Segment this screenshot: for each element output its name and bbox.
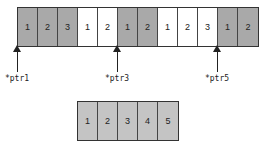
- top-cell: 2: [38, 8, 58, 46]
- top-cell: 1: [78, 8, 98, 46]
- bottom-cell: 3: [118, 102, 138, 140]
- top-cell: 2: [138, 8, 158, 46]
- top-cell: 1: [18, 8, 38, 46]
- arrow-shaft: [17, 50, 18, 72]
- arrow-shaft: [117, 50, 118, 72]
- bottom-cell: 2: [98, 102, 118, 140]
- bottom-cell: 5: [158, 102, 178, 140]
- top-cell: 1: [218, 8, 238, 46]
- bottom-cell: 1: [78, 102, 98, 140]
- top-cell: 1: [118, 8, 138, 46]
- bottom-memory-strip: 1 2 3 4 5: [77, 101, 179, 141]
- top-memory-strip: 1 2 3 1 2 1 2 1 2 3 1 2: [17, 7, 259, 47]
- top-cell: 2: [98, 8, 118, 46]
- bottom-cell: 4: [138, 102, 158, 140]
- top-cell: 3: [58, 8, 78, 46]
- top-cell: 2: [178, 8, 198, 46]
- pointer-label: *ptr3: [97, 74, 137, 83]
- top-cell: 3: [198, 8, 218, 46]
- arrow-shaft: [217, 50, 218, 72]
- top-cell: 1: [158, 8, 178, 46]
- pointer-label: *ptr5: [197, 74, 237, 83]
- pointer-label: *ptr1: [0, 74, 37, 83]
- top-cell: 2: [238, 8, 258, 46]
